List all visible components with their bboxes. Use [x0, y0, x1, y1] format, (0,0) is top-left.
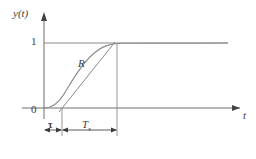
dead-time-label: τ — [48, 120, 53, 130]
tangent-line-R — [59, 42, 115, 112]
t-axis-arrow-icon — [232, 105, 240, 111]
tangent-slope-label: R — [78, 58, 85, 69]
plot-canvas — [0, 0, 256, 159]
rise-time-label: Ts — [82, 119, 91, 133]
step-response-figure: y(t) 1 0 t R τ Ts — [0, 0, 256, 159]
tau-dimension-arrow-right-icon — [56, 128, 62, 133]
y-axis-label: y(t) — [13, 8, 28, 19]
step-response-curve — [44, 43, 228, 108]
y-tick-label-zero: 0 — [31, 104, 37, 115]
x-axis-label: t — [243, 110, 246, 121]
ts-dimension-arrow-left-icon — [62, 128, 68, 133]
y-tick-label-one: 1 — [31, 36, 37, 47]
ts-dimension-arrow-right-icon — [111, 128, 117, 133]
rise-time-label-subscript: s — [88, 125, 91, 133]
y-axis-arrow-icon — [41, 12, 47, 21]
